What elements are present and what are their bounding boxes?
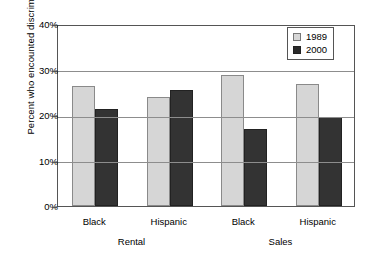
bar-chart: Percent who encounted discrimination 40%… <box>0 0 369 253</box>
legend-item: 2000 <box>293 44 327 56</box>
y-axis-tick-mark <box>52 207 57 208</box>
x-axis-category-label: Black <box>206 216 281 227</box>
legend-swatch-1989 <box>293 33 301 41</box>
x-axis-group-label: Sales <box>206 236 355 247</box>
gridline <box>58 117 354 118</box>
x-axis-group-label: Rental <box>57 236 206 247</box>
legend-item: 1989 <box>293 31 327 43</box>
y-axis-tick-mark <box>52 162 57 163</box>
x-axis-category-label: Black <box>57 216 132 227</box>
bar <box>147 97 170 206</box>
legend-swatch-2000 <box>293 46 301 54</box>
bar <box>244 129 267 206</box>
legend: 1989 2000 <box>287 27 334 60</box>
bar <box>170 90 193 206</box>
bar <box>221 75 244 206</box>
legend-label-1989: 1989 <box>306 32 327 42</box>
bar <box>95 109 118 206</box>
gridline <box>58 162 354 163</box>
gridline <box>58 71 354 72</box>
y-axis-tick-mark <box>52 116 57 117</box>
x-axis-category-label: Hispanic <box>281 216 356 227</box>
legend-label-2000: 2000 <box>306 45 327 55</box>
bar <box>72 86 95 206</box>
x-axis-category-label: Hispanic <box>132 216 207 227</box>
y-axis-tick-mark <box>52 71 57 72</box>
bar <box>296 84 319 206</box>
y-axis-tick-mark <box>52 25 57 26</box>
